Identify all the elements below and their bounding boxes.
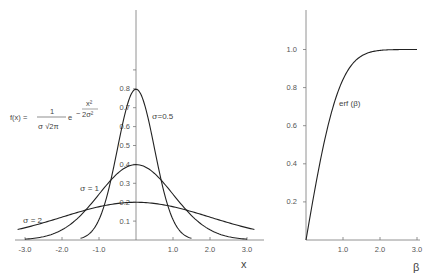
y-tick-label: 0.2 <box>287 197 297 206</box>
normal-distribution-chart: -3.0-2.0-1.01.02.03.0 0.10.20.30.40.50.6… <box>10 10 264 270</box>
x-tick-label: 1.0 <box>168 245 178 254</box>
erf-chart: 1.02.03.0 0.20.40.60.81.0 β erf (β) <box>287 10 423 273</box>
formula-e: e <box>68 113 72 122</box>
y-tick-label: 0.3 <box>120 179 130 188</box>
formula-exp-numerator: x² <box>86 99 93 108</box>
y-tick-label: 0.6 <box>287 121 297 130</box>
label-erf: erf (β) <box>339 99 361 108</box>
label-sigma-1: σ = 1 <box>80 184 100 193</box>
x-tick-label: 2.0 <box>205 245 215 254</box>
label-sigma-2: σ = 2 <box>23 216 43 225</box>
right-x-ticks: 1.02.03.0 <box>338 237 422 254</box>
left-x-ticks: -3.0-2.0-1.01.02.03.0 <box>19 237 253 254</box>
x-tick-label: -2.0 <box>56 245 69 254</box>
x-tick-label: 3.0 <box>412 245 422 254</box>
x-tick-label: 3.0 <box>242 245 252 254</box>
x-tick-label: 2.0 <box>375 245 385 254</box>
y-tick-label: 0.7 <box>120 103 130 112</box>
y-tick-label: 0.8 <box>287 83 297 92</box>
erf-curve <box>306 50 417 241</box>
chart-canvas: -3.0-2.0-1.01.02.03.0 0.10.20.30.40.50.6… <box>0 0 432 278</box>
left-x-axis-label: x <box>241 258 247 270</box>
right-y-ticks: 0.20.40.60.81.0 <box>287 45 306 206</box>
y-tick-label: 0.8 <box>120 84 130 93</box>
formula-numerator: 1 <box>50 107 54 116</box>
formula-exp-denominator: 2σ² <box>82 110 94 119</box>
formula-lhs: f(x) = <box>10 113 28 122</box>
curve-erf <box>306 50 417 241</box>
right-x-axis-label: β <box>413 261 419 273</box>
y-tick-label: 0.4 <box>287 159 297 168</box>
x-tick-label: -3.0 <box>19 245 32 254</box>
x-tick-label: -1.0 <box>93 245 106 254</box>
gaussian-formula: f(x) = 1 σ√2π e − x² 2σ² <box>10 99 98 131</box>
y-tick-label: 0.1 <box>120 217 130 226</box>
x-tick-label: 1.0 <box>338 245 348 254</box>
y-tick-label: 1.0 <box>287 45 297 54</box>
formula-denominator: σ√2π <box>38 122 59 131</box>
label-sigma-0-5: σ=0.5 <box>152 112 174 121</box>
y-tick-label: 0.5 <box>120 141 130 150</box>
formula-exp-sign: − <box>76 109 81 118</box>
